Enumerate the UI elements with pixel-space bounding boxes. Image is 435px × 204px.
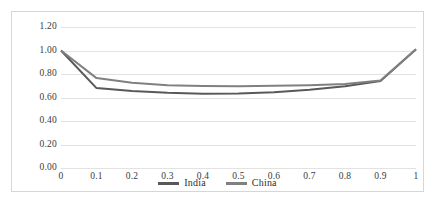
- y-axis-tick-label: 0.60: [40, 93, 57, 103]
- y-axis-tick-label: 0.80: [40, 69, 57, 79]
- legend-label: India: [184, 178, 206, 188]
- y-axis-tick-label: 1.00: [40, 46, 57, 56]
- legend-swatch-icon: [226, 182, 247, 185]
- y-axis-tick-label: 0.20: [40, 140, 57, 150]
- y-axis-tick-labels: 0.000.200.400.600.801.001.20: [24, 27, 57, 168]
- legend-swatch-icon: [158, 182, 179, 185]
- y-axis-tick-label: 1.20: [40, 22, 57, 32]
- gridline: [61, 168, 416, 169]
- legend-entry-china[interactable]: China: [226, 178, 277, 188]
- series-line-china: [61, 49, 416, 86]
- series-lines: [61, 27, 416, 168]
- chart-legend: IndiaChina: [12, 178, 423, 188]
- legend-entry-india[interactable]: India: [158, 178, 206, 188]
- y-axis-tick-label: 0.00: [40, 163, 57, 173]
- legend-label: China: [252, 178, 277, 188]
- chart-frame: 0.000.200.400.600.801.001.20 00.10.20.30…: [11, 11, 424, 192]
- y-axis-tick-label: 0.40: [40, 116, 57, 126]
- plot-area: [61, 27, 416, 168]
